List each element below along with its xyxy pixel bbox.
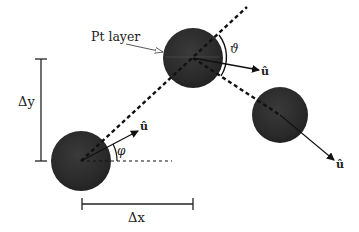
u-hat-label-2: û bbox=[261, 65, 269, 78]
u-hat-label-3: û bbox=[336, 158, 344, 171]
delta-x-scale-bar bbox=[82, 198, 193, 210]
delta-y-scale-bar bbox=[35, 59, 47, 161]
phi-label: φ bbox=[117, 144, 126, 158]
delta-x-label: Δx bbox=[128, 210, 145, 225]
diagram-canvas: Pt layer Δy Δx φ ϑ û û û bbox=[0, 0, 359, 232]
u-hat-label-1: û bbox=[140, 120, 148, 133]
delta-y-label: Δy bbox=[18, 94, 35, 109]
theta-label: ϑ bbox=[230, 42, 239, 56]
pt-layer-pointer bbox=[126, 44, 163, 52]
pt-layer-label: Pt layer bbox=[91, 29, 140, 44]
